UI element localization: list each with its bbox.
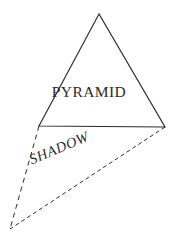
diagram-canvas: PYRAMID SHADOW bbox=[0, 0, 178, 244]
shadow-edge-left-line bbox=[10, 126, 39, 229]
pyramid-shadow-drawing bbox=[0, 0, 178, 244]
pyramid-triangle bbox=[39, 14, 165, 127]
pyramid-label: PYRAMID bbox=[0, 84, 178, 100]
